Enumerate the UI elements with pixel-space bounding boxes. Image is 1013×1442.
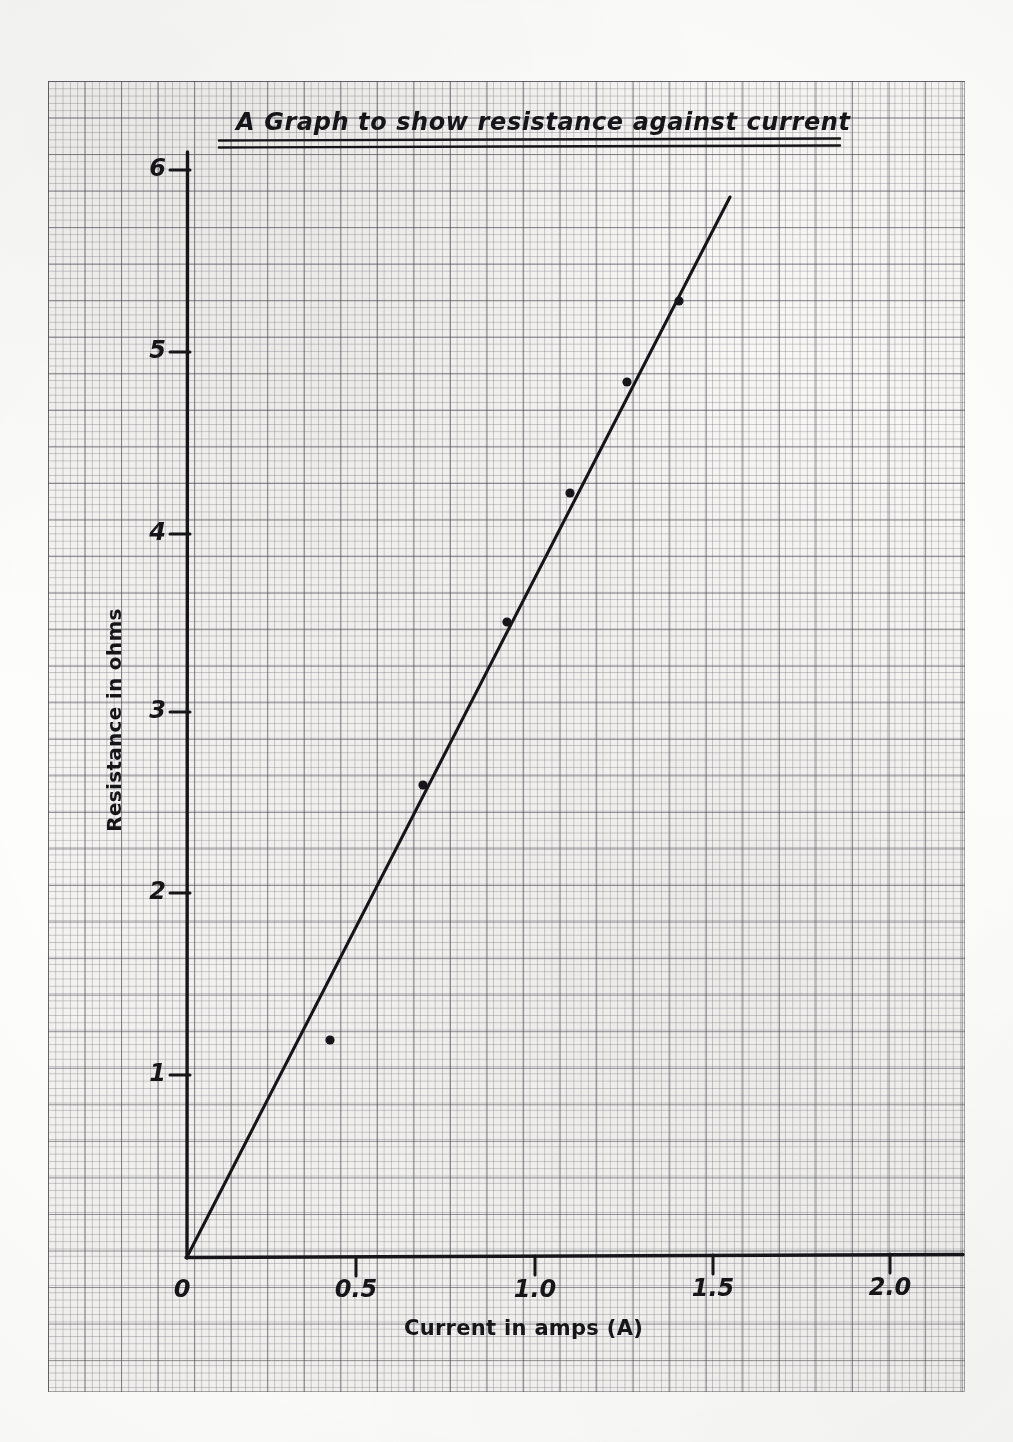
x-tick-label-0: 0: [152, 1275, 212, 1303]
y-tick-label-3: 3: [126, 696, 166, 724]
graph-paper-grid: [48, 81, 965, 1392]
x-tick-label-1-5: 1.5: [683, 1274, 743, 1302]
x-tick-label-1-0: 1.0: [505, 1275, 565, 1303]
x-axis-label: Current in amps (A): [404, 1316, 643, 1340]
y-axis-label: Resistance in ohms: [102, 600, 126, 840]
x-tick-label-0-5: 0.5: [326, 1275, 386, 1303]
y-tick-label-4: 4: [126, 518, 166, 546]
x-tick-label-2-0: 2.0: [860, 1273, 920, 1301]
y-tick-label-2: 2: [126, 877, 166, 905]
y-tick-label-6: 6: [126, 154, 166, 182]
chart-title: A Graph to show resistance against curre…: [236, 108, 851, 136]
scanned-page: A Graph to show resistance against curre…: [0, 0, 1013, 1442]
y-tick-label-5: 5: [126, 336, 166, 364]
y-tick-label-1: 1: [126, 1059, 166, 1087]
